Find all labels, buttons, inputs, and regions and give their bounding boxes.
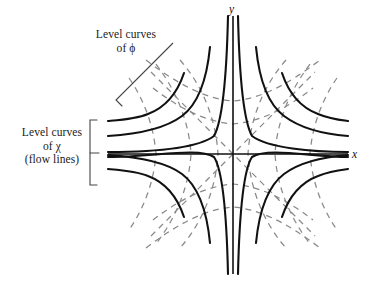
y-axis-label: y (229, 3, 234, 15)
chi-curve-q4-mid (256, 155, 348, 243)
chi-curve-q3-outer (108, 169, 184, 217)
chi-curve-q3-mid (108, 155, 210, 243)
x-axis-label: x (352, 148, 357, 160)
chi-curve-q2-mid (108, 47, 210, 136)
chi-level-curves-label: Level curves of χ (flow lines) (4, 126, 100, 167)
chi-curve-q1-outer (282, 73, 348, 121)
phi-level-curves-label: Level curves of ϕ (78, 28, 174, 55)
figure-container: Level curves of ϕ Level curves of χ (flo… (0, 0, 375, 287)
chi-curve-q4-outer (282, 169, 348, 217)
chi-curve-q1-inner (238, 16, 348, 152)
